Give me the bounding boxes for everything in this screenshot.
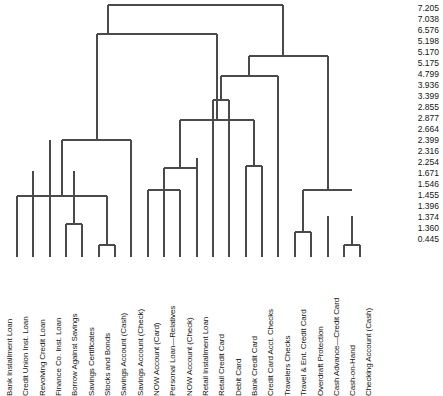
leaf-label-10: NOW Account (Card): [153, 323, 161, 396]
leaf-label-13: Retail Installment Loan: [202, 317, 210, 396]
scale-value-16: 1.671: [418, 169, 439, 178]
merge-distance-scale: 7.205 7.038 6.576 5.198 5.170 5.175 4.79…: [396, 0, 443, 396]
dendrogram-tree: [0, 0, 376, 262]
leaf-labels: Bank Installment Loan Credit Union Inst.…: [0, 258, 376, 396]
scale-value-8: 3.936: [418, 81, 439, 90]
leaf-label-5: Borrow Against Savings: [71, 314, 79, 396]
leaf-label-17: Credit Card Acct. Checks: [267, 309, 275, 396]
scale-value-4: 5.198: [418, 37, 439, 46]
leaf-label-18: Travelers Checks: [284, 336, 292, 396]
leaf-label-2: Credit Union Inst. Loan: [22, 316, 30, 396]
leaf-label-4: Finance Co. Inst. Loan: [55, 318, 63, 396]
leaf-label-8: Savings Account (Cash): [120, 313, 128, 396]
scale-value-20: 1.374: [418, 213, 439, 222]
scale-value-11: 2.877: [418, 114, 439, 123]
leaf-label-1: Bank Installment Loan: [6, 319, 14, 396]
scale-value-19: 1.396: [418, 202, 439, 211]
scale-value-21: 1.360: [418, 224, 439, 233]
scale-value-7: 4.799: [418, 70, 439, 79]
scale-value-18: 1.455: [418, 191, 439, 200]
leaf-label-6: Savings Certificates: [88, 327, 96, 396]
scale-value-10: 2.855: [418, 103, 439, 112]
leaf-label-21: Cash Advance—Credit Card: [333, 298, 341, 396]
scale-value-9: 3.399: [418, 92, 439, 101]
dendrogram-figure: Bank Installment Loan Credit Union Inst.…: [0, 0, 443, 396]
scale-value-17: 1.546: [418, 180, 439, 189]
scale-value-12: 2.664: [418, 125, 439, 134]
leaf-label-3: Revolving Credit Loan: [39, 319, 47, 396]
scale-value-5: 5.170: [418, 48, 439, 57]
scale-value-15: 2.254: [418, 158, 439, 167]
leaf-label-16: Bank Credit Card: [251, 336, 259, 396]
scale-value-13: 2.399: [418, 136, 439, 145]
leaf-label-20: Overdraft Protection: [317, 326, 325, 396]
scale-value-3: 6.576: [418, 26, 439, 35]
leaf-label-14: Retail Credit Card: [218, 334, 226, 396]
scale-value-14: 2.316: [418, 147, 439, 156]
leaf-label-22: Cash-on-Hand: [349, 345, 357, 396]
scale-value-2: 7.038: [418, 15, 439, 24]
scale-value-1: 7.205: [418, 4, 439, 13]
scale-value-22: 0.445: [418, 235, 439, 244]
leaf-label-23: Checking Account (Cash): [365, 308, 373, 396]
leaf-label-15: Debit Card: [235, 359, 243, 396]
leaf-label-11: Personal Loan—Relatives: [169, 306, 177, 396]
leaf-label-19: Travel & Ent. Credit Card: [300, 309, 308, 396]
leaf-label-9: Savings Account (Check): [137, 309, 145, 396]
scale-value-6: 5.175: [418, 59, 439, 68]
leaf-label-12: NOW Account (Check): [186, 317, 194, 396]
leaf-label-7: Stocks and Bonds: [104, 333, 112, 396]
